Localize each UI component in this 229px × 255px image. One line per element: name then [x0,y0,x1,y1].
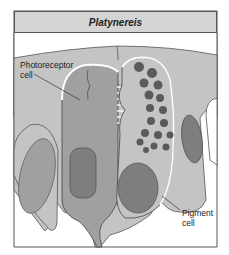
pigment-nucleus [118,163,158,213]
pigment-label-line1: Pigment [182,208,213,218]
diagram-title: Platynereis [89,17,142,28]
photoreceptor-label-line1: Photoreceptor [20,60,73,70]
pigment-label: Pigment cell [182,208,213,228]
photoreceptor-label: Photoreceptor cell [20,60,73,80]
title-bar: Platynereis [14,11,217,33]
pigment-label-line2: cell [182,218,213,228]
photoreceptor-label-line2: cell [20,70,73,80]
photoreceptor-nucleus [70,148,96,198]
